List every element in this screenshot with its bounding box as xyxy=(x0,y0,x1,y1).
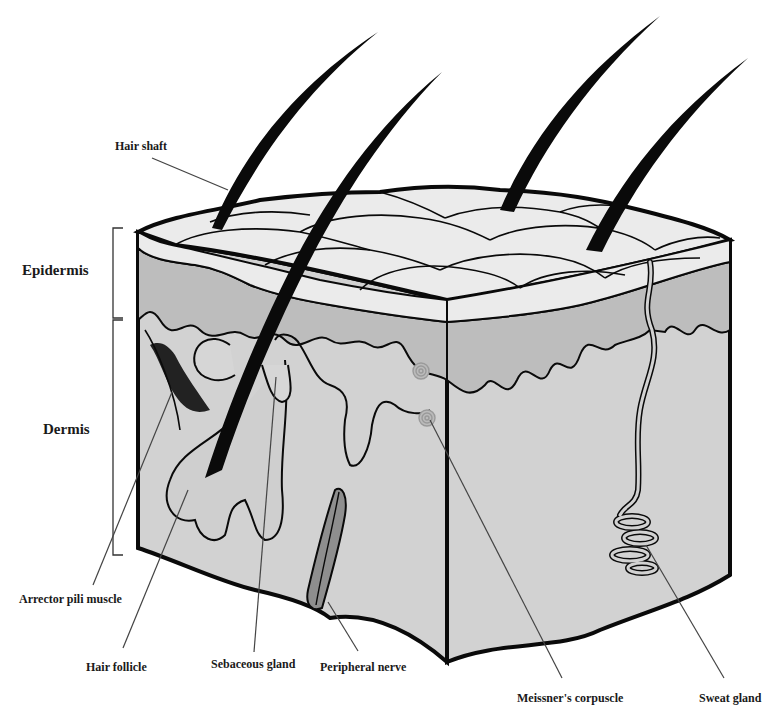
hair-shaft-label: Hair shaft xyxy=(115,140,167,152)
sweat-gland-label: Sweat gland xyxy=(699,692,761,704)
peripheral-nerve-label: Peripheral nerve xyxy=(320,661,406,673)
dermis-label: Dermis xyxy=(43,422,90,437)
sebaceous-gland-left xyxy=(194,339,235,380)
hair-follicle-label: Hair follicle xyxy=(86,661,147,673)
skin-cross-section-illustration xyxy=(0,0,783,717)
sebaceous-gland-label: Sebaceous gland xyxy=(211,658,295,670)
layer-brackets xyxy=(113,228,123,555)
skin-diagram: Epidermis Dermis Hair shaft Arrector pil… xyxy=(0,0,783,717)
epidermis-label: Epidermis xyxy=(22,263,89,278)
meissners-corpuscle-label: Meissner's corpuscle xyxy=(517,692,623,704)
arrector-pili-muscle-label: Arrector pili muscle xyxy=(19,593,122,605)
